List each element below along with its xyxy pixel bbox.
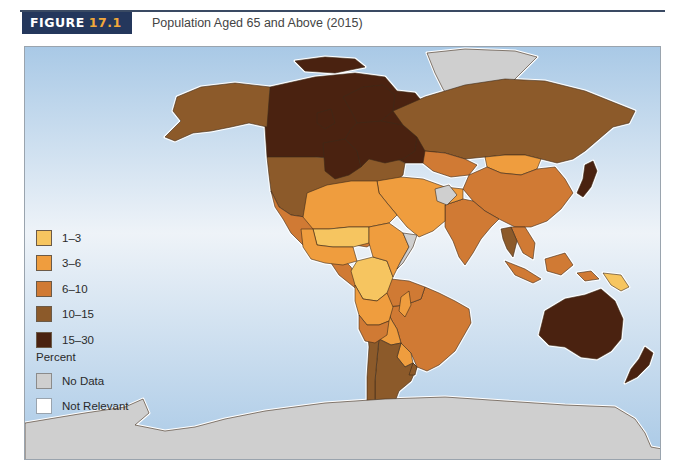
legend-label: 1–3 — [62, 232, 81, 244]
legend-swatch — [36, 332, 52, 348]
legend-label: No Data — [62, 375, 104, 387]
legend-swatch — [36, 281, 52, 297]
legend-label: 10–15 — [62, 308, 94, 320]
legend-swatch — [36, 306, 52, 322]
legend-item: 15–30 — [36, 331, 94, 349]
legend-swatch — [36, 373, 52, 389]
figure-word: FIGURE — [30, 15, 85, 30]
region-sahel: Sahel: 1–3 — [313, 227, 369, 247]
legend-item: 1–3 — [36, 229, 81, 247]
legend-label: 3–6 — [62, 257, 81, 269]
figure-title: Population Aged 65 and Above (2015) — [152, 12, 363, 34]
legend-label: 15–30 — [62, 334, 94, 346]
legend-item: 3–6 — [36, 254, 81, 272]
legend-label: 6–10 — [62, 283, 88, 295]
legend-swatch — [36, 230, 52, 246]
legend-heading: Percent — [36, 351, 76, 363]
legend-item-no-data: No Data — [36, 372, 104, 390]
legend-label: Not Relevant — [62, 400, 128, 412]
figure-number: 17.1 — [89, 15, 122, 30]
legend-item: 6–10 — [36, 280, 88, 298]
legend-item-not-relevant: Not Relevant — [36, 397, 128, 415]
legend-swatch — [36, 255, 52, 271]
legend-swatch — [36, 398, 52, 414]
figure-label: FIGURE17.1 — [22, 12, 132, 34]
legend-item: 10–15 — [36, 305, 94, 323]
